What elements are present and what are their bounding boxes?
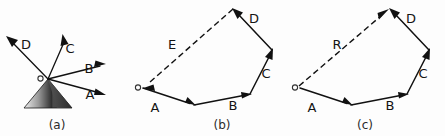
vector-b-panel-b [194,92,252,105]
panel-c: R D C B A (c) [292,8,430,132]
vector-b-panel-a [48,61,106,80]
vector-label-b-panel-c: B [386,98,395,113]
vector-label-a-panel-a: A [86,87,95,102]
vector-label-e-panel-b: E [168,37,176,52]
vector-label-d-panel-a: D [21,37,31,52]
panel-a: D C B A (a) [6,34,106,132]
vector-r-panel-c [299,9,389,86]
vector-label-r-panel-c: R [332,37,341,52]
origin-marker-panel-c [292,85,297,90]
vector-label-b-panel-a: B [85,61,94,76]
vector-label-b-panel-b: B [229,98,238,113]
vector-diagram-figure: D C B A (a) [0,0,445,136]
vector-label-c-panel-b: C [261,66,270,81]
panel-b: E D C B A (b) [135,8,273,132]
panel-caption-b: (b) [214,118,231,132]
vector-label-a-panel-c: A [308,100,317,115]
origin-marker-panel-b [135,85,140,90]
vector-b-panel-c [351,92,409,105]
panel-caption-c: (c) [357,118,373,132]
vector-label-d-panel-b: D [249,11,259,26]
vector-label-d-panel-c: D [406,11,416,26]
origin-marker-panel-a [38,76,43,81]
vector-label-c-panel-c: C [418,66,427,81]
vector-figure-canvas: D C B A (a) [0,0,445,136]
panel-caption-a: (a) [49,118,66,132]
vector-label-c-panel-a: C [65,41,74,56]
vector-label-a-panel-b: A [151,100,160,115]
vector-e-panel-b [142,9,233,91]
